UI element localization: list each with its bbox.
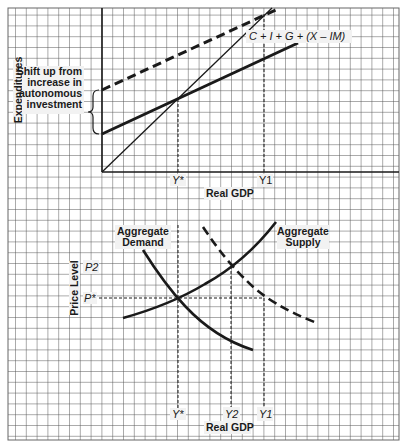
top-x-tick-y1: Y1 xyxy=(259,174,272,186)
bottom-x-tick-y2: Y2 xyxy=(225,408,238,420)
y-tick-pstar: P* xyxy=(84,292,96,304)
economics-diagram: Expenditures Shift up from increase in a… xyxy=(0,0,403,447)
bottom-x-tick-ystar: Y* xyxy=(172,408,184,420)
ad-label-line-2: Demand xyxy=(122,236,163,248)
bottom-x-axis-label: Real GDP xyxy=(206,421,254,433)
expenditure-curve-label: C + I + G + (X – IM) xyxy=(249,30,346,42)
annotation-line-4: investment xyxy=(27,98,83,110)
bottom-x-tick-y1: Y1 xyxy=(259,408,272,420)
top-x-axis-label: Real GDP xyxy=(206,187,254,199)
as-label-line-2: Supply xyxy=(285,236,320,248)
y-tick-p2: P2 xyxy=(85,261,98,273)
top-x-tick-ystar: Y* xyxy=(172,174,184,186)
bottom-y-axis-label: Price Level xyxy=(68,260,80,316)
